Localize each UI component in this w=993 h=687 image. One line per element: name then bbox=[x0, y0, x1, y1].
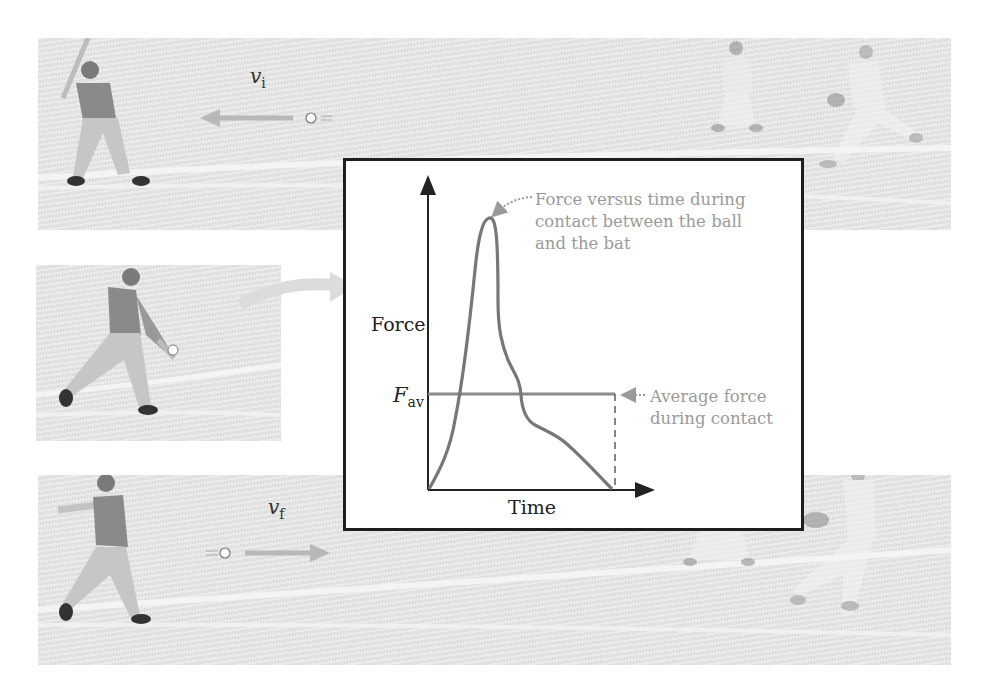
force-curve bbox=[429, 218, 612, 489]
x-axis-label: Time bbox=[508, 496, 556, 518]
fav-label: Fav bbox=[393, 383, 424, 410]
curve-annotation-line-1: Force versus time during bbox=[535, 189, 746, 211]
average-annotation: Average force during contact bbox=[650, 386, 773, 430]
peak-annotation-arrow bbox=[497, 197, 532, 212]
graph-plot bbox=[0, 0, 993, 687]
curve-annotation-line-2: contact between the ball bbox=[535, 211, 746, 233]
force-time-graph: Force Time Fav Force versus time during … bbox=[343, 158, 804, 531]
y-axis-label: Force bbox=[371, 313, 426, 335]
fav-subscript: av bbox=[408, 394, 424, 410]
average-annotation-line-1: Average force bbox=[650, 386, 773, 408]
average-annotation-line-2: during contact bbox=[650, 408, 773, 430]
fav-symbol: F bbox=[393, 383, 408, 407]
curve-annotation: Force versus time during contact between… bbox=[535, 189, 746, 255]
curve-annotation-line-3: and the bat bbox=[535, 233, 746, 255]
